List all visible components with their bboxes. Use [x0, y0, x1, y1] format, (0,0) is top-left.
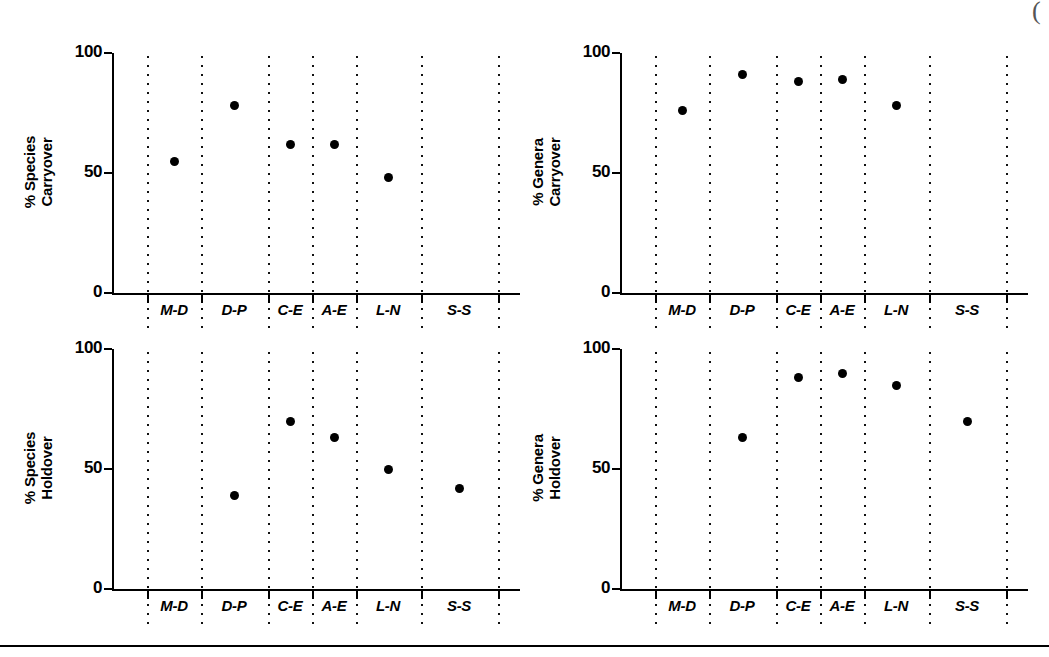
grid-separator-5: [421, 56, 423, 332]
data-point: [838, 369, 847, 378]
axis-label-y-line1: % Genera: [529, 112, 546, 232]
grid-separator-3: [820, 56, 822, 332]
grid-separator-4: [356, 352, 358, 628]
data-point: [892, 101, 901, 110]
axis-ytick-label-100: 100: [44, 338, 102, 358]
axis-ytick-mark-0: [104, 588, 112, 590]
grid-separator-3: [312, 56, 314, 332]
grid-separator-1: [201, 352, 203, 628]
axis-ytick-label-50: 50: [552, 162, 610, 182]
axis-ytick-label-100: 100: [552, 42, 610, 62]
data-point: [384, 465, 393, 474]
data-point: [794, 77, 803, 86]
data-point: [230, 491, 239, 500]
grid-separator-3: [820, 352, 822, 628]
axis-ytick-mark-100: [612, 52, 620, 54]
grid-separator-0: [655, 352, 657, 628]
grid-separator-5: [929, 56, 931, 332]
grid-separator-2: [776, 56, 778, 332]
grid-separator-3: [312, 352, 314, 628]
axis-ytick-mark-0: [612, 588, 620, 590]
axis-xcat-label-L-N: L-N: [856, 301, 936, 318]
axis-xcat-label-L-N: L-N: [348, 301, 428, 318]
grid-separator-1: [709, 352, 711, 628]
axis-xcat-label-S-S: S-S: [927, 597, 1007, 614]
grid-separator-4: [864, 56, 866, 332]
axis-ytick-mark-0: [104, 292, 112, 294]
data-point: [384, 173, 393, 182]
grid-separator-6: [1006, 352, 1008, 628]
axis-line-y: [620, 53, 622, 295]
data-point: [794, 373, 803, 382]
axis-ytick-label-0: 0: [552, 578, 610, 598]
grid-separator-1: [201, 56, 203, 332]
grid-separator-5: [929, 352, 931, 628]
axis-line-y: [620, 349, 622, 591]
grid-separator-5: [421, 352, 423, 628]
axis-ytick-mark-50: [612, 468, 620, 470]
figure-four-panel-scatter: % SpeciesCarryover100500M-DD-PC-EA-EL-NS…: [0, 0, 1049, 657]
grid-separator-0: [655, 56, 657, 332]
grid-separator-6: [498, 352, 500, 628]
axis-ytick-mark-50: [612, 172, 620, 174]
axis-ytick-mark-50: [104, 172, 112, 174]
axis-ytick-label-0: 0: [44, 578, 102, 598]
axis-ytick-label-50: 50: [44, 458, 102, 478]
data-point: [230, 101, 239, 110]
data-point: [330, 433, 339, 442]
axis-xcat-label-S-S: S-S: [927, 301, 1007, 318]
axis-ytick-label-0: 0: [44, 282, 102, 302]
axis-line-x: [620, 589, 1028, 591]
data-point: [286, 140, 295, 149]
axis-line-x: [112, 293, 520, 295]
data-point: [678, 106, 687, 115]
grid-separator-2: [268, 352, 270, 628]
page-horizontal-rule: [0, 645, 1049, 647]
axis-xcat-label-S-S: S-S: [419, 301, 499, 318]
grid-separator-2: [268, 56, 270, 332]
axis-ytick-mark-50: [104, 468, 112, 470]
data-point: [330, 140, 339, 149]
data-point: [738, 70, 747, 79]
grid-separator-2: [776, 352, 778, 628]
axis-line-y: [112, 349, 114, 591]
axis-ytick-label-100: 100: [552, 338, 610, 358]
data-point: [963, 417, 972, 426]
axis-line-x: [112, 589, 520, 591]
page-corner-mark: (: [1032, 0, 1041, 26]
axis-xcat-label-L-N: L-N: [348, 597, 428, 614]
data-point: [738, 433, 747, 442]
axis-ytick-mark-0: [612, 292, 620, 294]
axis-label-y-line1: % Species: [21, 112, 38, 232]
grid-separator-4: [864, 352, 866, 628]
grid-separator-0: [147, 352, 149, 628]
grid-separator-4: [356, 56, 358, 332]
axis-ytick-label-100: 100: [44, 42, 102, 62]
axis-label-y-line1: % Genera: [529, 408, 546, 528]
axis-xcat-label-L-N: L-N: [856, 597, 936, 614]
data-point: [838, 75, 847, 84]
data-point: [892, 381, 901, 390]
grid-separator-6: [1006, 56, 1008, 332]
grid-separator-1: [709, 56, 711, 332]
axis-line-y: [112, 53, 114, 295]
axis-xcat-label-S-S: S-S: [419, 597, 499, 614]
axis-ytick-label-50: 50: [44, 162, 102, 182]
axis-label-y-line1: % Species: [21, 408, 38, 528]
axis-ytick-mark-100: [104, 348, 112, 350]
axis-ytick-label-50: 50: [552, 458, 610, 478]
data-point: [170, 157, 179, 166]
grid-separator-6: [498, 56, 500, 332]
data-point: [455, 484, 464, 493]
axis-ytick-label-0: 0: [552, 282, 610, 302]
axis-ytick-mark-100: [104, 52, 112, 54]
axis-line-x: [620, 293, 1028, 295]
data-point: [286, 417, 295, 426]
axis-ytick-mark-100: [612, 348, 620, 350]
grid-separator-0: [147, 56, 149, 332]
